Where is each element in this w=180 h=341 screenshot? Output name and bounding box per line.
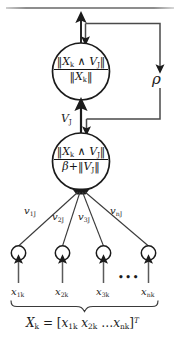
choice-denominator: β+‖VJ‖ xyxy=(52,161,110,172)
figure-canvas: ‖Xk ∧ VJ‖ ‖Xk‖ ‖Xk ∧ VJ‖ β+‖VJ‖ ρ VJ v1J… xyxy=(0,0,180,341)
input-label-1: x1k xyxy=(11,287,24,297)
input-unit-3 xyxy=(96,246,110,260)
weight-label-3: v3J xyxy=(78,212,90,222)
input-vector-equation: Xk = [x1k x2k …xnk]T xyxy=(26,317,139,329)
choice-node-formula: ‖Xk ∧ VJ‖ β+‖VJ‖ xyxy=(52,146,110,172)
input-label-4: xnk xyxy=(141,287,154,297)
match-node-formula: ‖Xk ∧ VJ‖ ‖Xk‖ xyxy=(52,56,110,82)
weight-label-1: v1J xyxy=(24,206,36,216)
input-unit-2 xyxy=(55,246,69,260)
weight-line-1 xyxy=(19,192,79,246)
interlayer-label: VJ xyxy=(61,113,72,124)
vigilance-label: ρ xyxy=(152,72,161,87)
input-label-2: x2k xyxy=(55,287,68,297)
match-denominator: ‖Xk‖ xyxy=(52,71,110,82)
input-unit-4 xyxy=(141,246,155,260)
weight-line-4 xyxy=(85,192,149,246)
input-ellipsis: ••• xyxy=(118,272,140,282)
weight-label-4: vnJ xyxy=(110,206,122,216)
input-label-3: x3k xyxy=(96,287,109,297)
input-unit-1 xyxy=(11,246,25,260)
choice-numerator: ‖Xk ∧ VJ‖ xyxy=(52,146,110,157)
input-vector-brace xyxy=(11,301,158,312)
weight-label-2: v2J xyxy=(52,212,64,222)
match-numerator: ‖Xk ∧ VJ‖ xyxy=(52,56,110,67)
